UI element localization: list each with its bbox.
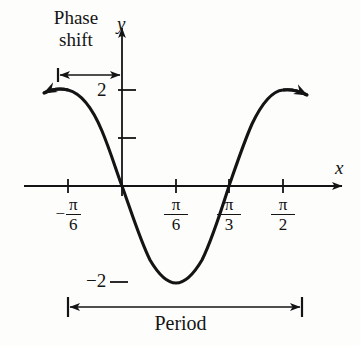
phase-shift-line1: Phase: [54, 7, 98, 28]
x-label-pi-over-3: π 3: [217, 196, 241, 234]
x-label-pi-over-6: π 6: [164, 196, 188, 234]
period-caption: Period: [0, 313, 361, 333]
graph-canvas: [0, 0, 361, 346]
pi-numerator: π: [164, 196, 188, 215]
x-label-neg-pi-over-6: − π 6: [46, 196, 90, 234]
x-label-pi-over-2: π 2: [271, 196, 295, 234]
x-axis-letter: x: [335, 158, 343, 177]
y-label-2: 2: [97, 80, 107, 99]
six-denominator: 6: [164, 215, 188, 233]
phase-shift-line2: shift: [30, 30, 122, 49]
pi-numerator: π: [217, 196, 241, 215]
three-denominator: 3: [217, 215, 241, 233]
two-denominator: 2: [271, 215, 295, 233]
phase-shift-arrow: [58, 68, 120, 82]
pi-numerator: π: [271, 196, 295, 215]
pi-numerator: π: [66, 196, 81, 215]
minus-sign: −: [55, 205, 65, 224]
y-axis-letter: y: [117, 14, 125, 33]
six-denominator: 6: [66, 215, 81, 233]
phase-shift-caption: Phase shift: [30, 8, 122, 49]
trigonometric-graph-figure: Phase shift y x 2 −2 − π 6 π 6 π 3 π 2 P…: [0, 0, 361, 346]
y-label-negative-2: −2: [86, 271, 106, 290]
